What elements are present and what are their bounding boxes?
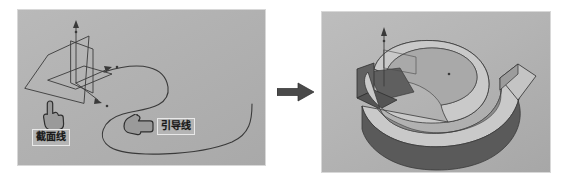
- label-guide-line: 引导线: [157, 118, 195, 135]
- figure-stage: 截面线 引导线: [0, 0, 561, 179]
- right-panel-geometry: [322, 12, 550, 172]
- result-z-axis-arrowhead: [381, 27, 387, 36]
- section-profile-outline: [25, 36, 89, 103]
- z-axis-arrowhead: [73, 20, 79, 28]
- x-axis-line: [76, 69, 108, 83]
- hand-pointing-left-icon: [122, 114, 156, 140]
- result-z-axis-tick: [383, 40, 386, 43]
- right-panel-swept-result: [322, 12, 550, 172]
- hand-pointing-up-icon: [40, 98, 66, 131]
- right-arrow-icon: [277, 82, 315, 102]
- y-axis-tick: [106, 105, 109, 108]
- label-section-line: 截面线: [32, 129, 70, 146]
- left-panel-input-curves: 截面线 引导线: [18, 10, 265, 165]
- y-axis-line: [76, 83, 98, 100]
- z-axis-tick: [75, 31, 78, 34]
- result-origin-marker: [448, 73, 451, 76]
- y-axis-arrowhead: [94, 98, 102, 104]
- guide-curve-spline: [102, 66, 252, 154]
